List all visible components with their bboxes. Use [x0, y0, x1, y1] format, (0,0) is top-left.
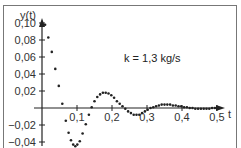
y-tick-label: −0,02	[8, 119, 36, 131]
data-point	[146, 108, 149, 111]
y-axis-label: y(t)	[20, 9, 36, 21]
data-point	[183, 106, 186, 109]
damped-oscillation-chart: 0,10,20,30,40,50,100,080,060,040,02−0,02…	[0, 0, 241, 148]
data-point	[166, 103, 169, 106]
data-point	[186, 106, 189, 109]
x-tick-label: 0,5	[209, 111, 224, 123]
data-point	[155, 105, 158, 108]
axes	[34, 18, 225, 146]
y-tick-label: 0,08	[15, 34, 36, 46]
data-point	[74, 145, 77, 148]
data-point	[88, 114, 91, 117]
x-axis-label: t	[228, 108, 231, 120]
data-point	[180, 105, 183, 108]
data-point	[197, 108, 200, 111]
data-point	[76, 143, 79, 146]
data-point	[99, 93, 102, 96]
data-point	[81, 132, 84, 135]
data-point	[51, 51, 54, 54]
y-tick-label: 0,06	[15, 51, 36, 63]
data-point	[202, 108, 205, 111]
y-tick-label: 0,02	[15, 85, 36, 97]
data-point	[110, 94, 113, 97]
data-point	[67, 131, 70, 134]
data-point	[121, 105, 124, 108]
data-point	[188, 107, 191, 110]
data-point	[208, 108, 211, 111]
data-point	[194, 108, 197, 111]
x-tick-label: 0,2	[104, 111, 119, 123]
data-point	[113, 97, 116, 100]
data-point	[149, 107, 152, 110]
data-point	[41, 22, 44, 25]
data-point	[135, 114, 138, 117]
data-point	[47, 36, 50, 39]
data-point	[177, 105, 180, 108]
data-point	[116, 100, 119, 103]
data-point	[132, 114, 135, 117]
data-point	[44, 23, 47, 26]
data-point	[54, 68, 57, 71]
data-point	[79, 140, 82, 143]
data-point	[174, 104, 177, 107]
data-point	[160, 103, 163, 106]
data-point	[127, 110, 130, 113]
data-point	[158, 104, 161, 107]
damping-annotation: k = 1,3 kg/s	[124, 52, 181, 64]
data-point	[141, 112, 144, 115]
data-point	[104, 91, 107, 94]
data-point	[107, 92, 110, 95]
data-point	[214, 107, 217, 110]
data-point	[72, 143, 75, 146]
data-point	[205, 108, 208, 111]
data-point	[138, 114, 141, 117]
data-point	[61, 103, 64, 106]
y-tick-label: −0,04	[8, 136, 36, 148]
data-point	[102, 91, 105, 94]
data-point	[124, 108, 127, 111]
data-point	[58, 85, 61, 88]
data-point	[211, 107, 214, 110]
data-point	[90, 106, 93, 109]
data-point	[118, 103, 121, 106]
data-point	[200, 108, 203, 111]
data-point	[144, 110, 147, 113]
data-point	[70, 139, 73, 142]
data-point	[85, 123, 88, 126]
data-point	[172, 104, 175, 107]
data-point	[130, 112, 133, 115]
data-point	[65, 120, 68, 123]
data-point	[169, 103, 172, 106]
data-point	[191, 107, 194, 110]
y-tick-label: 0,04	[15, 68, 36, 80]
data-point	[93, 100, 96, 103]
x-tick-label: 0,1	[69, 111, 84, 123]
data-points	[41, 22, 219, 148]
data-point	[163, 103, 166, 106]
ticks: 0,10,20,30,40,50,100,080,060,040,02−0,02…	[8, 17, 224, 148]
data-point	[216, 107, 219, 110]
data-point	[152, 106, 155, 109]
data-point	[96, 96, 99, 99]
x-tick-label: 0,4	[174, 111, 189, 123]
